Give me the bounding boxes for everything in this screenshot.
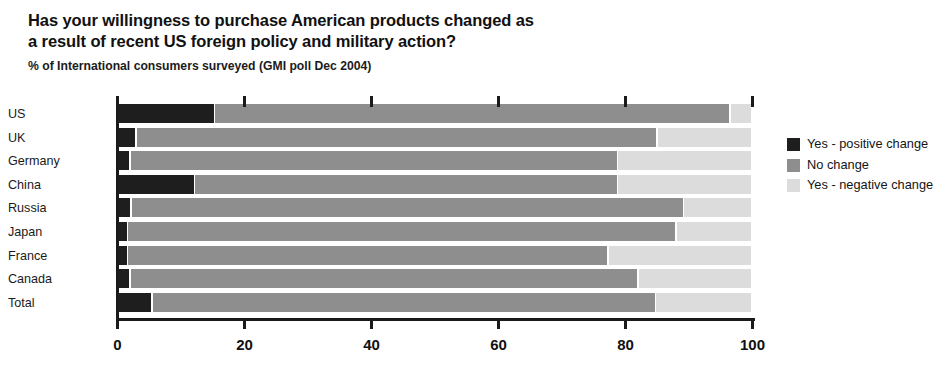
category-label-japan: Japan [8, 225, 112, 239]
bar-segment[interactable] [731, 104, 752, 123]
x-axis-tick-top [243, 96, 246, 107]
x-axis-tick-bottom [624, 318, 627, 329]
x-axis-tick-label: 60 [490, 336, 507, 353]
bar-segment[interactable] [677, 222, 752, 241]
bar-segment[interactable] [684, 198, 751, 217]
bar-row-russia[interactable] [118, 198, 753, 217]
bar-segment[interactable] [118, 222, 127, 241]
bar-segment[interactable] [618, 151, 751, 170]
bar-segment[interactable] [118, 246, 127, 265]
x-axis-tick-label: 80 [617, 336, 634, 353]
legend-item[interactable]: Yes - negative change [787, 177, 942, 193]
bar-segment[interactable] [131, 269, 637, 288]
bar-segment[interactable] [132, 198, 683, 217]
bar-segment[interactable] [118, 104, 214, 123]
bar-row-canada[interactable] [118, 269, 753, 288]
legend-swatch-negative [787, 179, 800, 192]
bar-segment[interactable] [118, 151, 129, 170]
category-label-russia: Russia [8, 201, 112, 215]
bar-segment[interactable] [118, 198, 130, 217]
legend-item[interactable]: No change [787, 157, 942, 173]
chart-legend: Yes - positive changeNo changeYes - nega… [787, 136, 942, 198]
bar-segment[interactable] [618, 175, 751, 194]
bar-segment[interactable] [215, 104, 729, 123]
bar-row-china[interactable] [118, 175, 753, 194]
category-label-uk: UK [8, 131, 112, 145]
bar-segment[interactable] [118, 175, 194, 194]
legend-swatch-positive [787, 138, 800, 151]
bar-segment[interactable] [153, 293, 655, 312]
x-axis-tick-top [624, 96, 627, 107]
bar-segment[interactable] [131, 151, 617, 170]
x-axis-tick-bottom [243, 318, 246, 329]
bar-row-germany[interactable] [118, 151, 753, 170]
category-label-france: France [8, 249, 112, 263]
bar-row-total[interactable] [118, 293, 753, 312]
page-title-line-2: a result of recent US foreign policy and… [28, 31, 648, 52]
bar-row-france[interactable] [118, 246, 753, 265]
x-axis-tick-bottom [116, 318, 119, 329]
x-axis-tick-label: 20 [236, 336, 253, 353]
bar-segment[interactable] [609, 246, 752, 265]
category-label-canada: Canada [8, 272, 112, 286]
plot-area [118, 104, 753, 316]
category-label-us: US [8, 107, 112, 121]
bar-segment[interactable] [195, 175, 616, 194]
x-axis-tick-bottom [497, 318, 500, 329]
bar-segment[interactable] [658, 128, 752, 147]
x-axis-tick-top [751, 96, 754, 107]
chart-heading: Has your willingness to purchase America… [28, 10, 648, 74]
legend-label: Yes - positive change [807, 136, 928, 152]
x-axis-tick-bottom [370, 318, 373, 329]
bar-segment[interactable] [137, 128, 656, 147]
x-axis-tick-label: 100 [740, 336, 765, 353]
bar-segment[interactable] [128, 246, 607, 265]
bar-segment[interactable] [118, 128, 135, 147]
category-label-total: Total [8, 296, 112, 310]
bar-segment[interactable] [118, 269, 129, 288]
category-label-china: China [8, 178, 112, 192]
legend-label: Yes - negative change [807, 177, 933, 193]
page-title-line-1: Has your willingness to purchase America… [28, 10, 648, 31]
legend-swatch-no-change [787, 159, 800, 172]
chart-subtitle: % of International consumers surveyed (G… [28, 58, 648, 74]
x-axis-tick-top [116, 96, 119, 107]
x-axis-tick-top [370, 96, 373, 107]
x-axis-tick-label: 0 [113, 336, 121, 353]
legend-item[interactable]: Yes - positive change [787, 136, 942, 152]
x-axis-line [116, 318, 755, 321]
bar-row-uk[interactable] [118, 128, 753, 147]
legend-label: No change [807, 157, 869, 173]
x-axis-tick-top [497, 96, 500, 107]
x-axis-tick-label: 40 [363, 336, 380, 353]
bar-segment[interactable] [656, 293, 751, 312]
bar-row-japan[interactable] [118, 222, 753, 241]
bar-row-us[interactable] [118, 104, 753, 123]
y-axis-category-labels: USUKGermanyChinaRussiaJapanFranceCanadaT… [4, 104, 112, 316]
bar-segment[interactable] [118, 293, 151, 312]
bar-segment[interactable] [128, 222, 675, 241]
bar-segment[interactable] [639, 269, 752, 288]
category-label-germany: Germany [8, 154, 112, 168]
x-axis-tick-bottom [751, 318, 754, 329]
